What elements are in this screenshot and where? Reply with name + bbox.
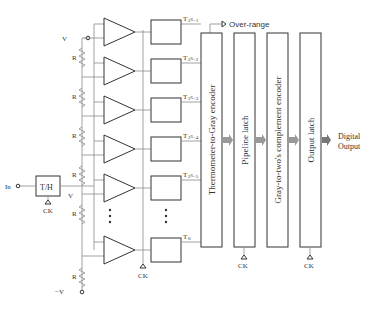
flipflop-box [151, 137, 181, 161]
t-sub: 2ᴺ−4 [188, 135, 199, 140]
flipflop-box [151, 20, 181, 44]
flipflop-box [151, 238, 181, 262]
ck3-label: CK [238, 262, 248, 270]
vi-label: V [68, 192, 73, 200]
resistor-label: R [72, 273, 77, 281]
block-label-pipeline-latch: Pipeline latch [240, 115, 250, 165]
t-sub: 2ᴺ−3 [188, 96, 199, 101]
comparator-icon [104, 18, 135, 46]
comparator-icon [104, 236, 135, 264]
block-label-output-latch: Output latch [306, 117, 316, 162]
vref-neg-terminal [80, 290, 84, 294]
digital-output-line2: Output [338, 142, 361, 151]
ck3-clock-icon [241, 255, 247, 259]
comparator-bank [82, 18, 181, 268]
flipflop-box [151, 98, 181, 122]
resistor-ladder [79, 24, 94, 294]
t-sub: 2ᴺ−2 [188, 57, 199, 62]
flipflop-box [151, 59, 181, 83]
block-label-thermo-gray: Thermometer-to-Gray encoder [207, 85, 217, 196]
resistor-label: R [72, 171, 77, 179]
vref-pos-label: V [62, 35, 67, 43]
t-sub: 0 [188, 236, 191, 241]
resistor-label: R [72, 132, 77, 140]
resistor-label: R [72, 93, 77, 101]
ck1-clock-icon [45, 200, 51, 204]
ck1-label: CK [43, 207, 53, 215]
ck2-clock-icon [140, 264, 146, 268]
comparator-icon [104, 174, 135, 202]
ck2-label: CK [138, 272, 148, 280]
over-range-label: Over-range [229, 20, 270, 29]
comparator-icon [104, 135, 135, 163]
comparator-icon [104, 96, 135, 124]
t-sub: 2ᴺ−5 [188, 174, 199, 179]
comparator-icon [104, 57, 135, 85]
output-arrow-icon [322, 134, 331, 146]
flash-adc-diagram: Thermometer-to-Gray encoder Pipeline lat… [0, 0, 376, 316]
th-label: T/H [40, 183, 53, 192]
ck4-label: CK [304, 262, 314, 270]
vref-neg-label: −V [55, 288, 64, 296]
over-range-arrow-icon [222, 21, 226, 27]
block-label-gray-twos: Gray-to-two's complement encoder [273, 76, 283, 203]
resistor-label: R [72, 210, 77, 218]
resistor-label: R [72, 54, 77, 62]
digital-output-line1: Digital [338, 132, 361, 141]
flipflop-box [151, 176, 181, 200]
in-label: In [5, 183, 11, 191]
t-sub: 2ᴺ−1 [188, 18, 199, 23]
ck4-clock-icon [307, 255, 313, 259]
